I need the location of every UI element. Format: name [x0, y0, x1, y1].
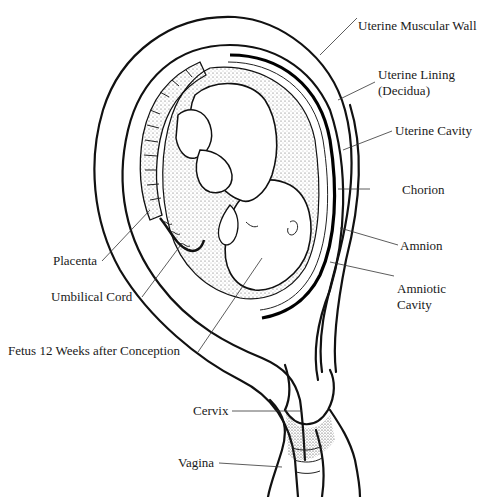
label-amniotic-cavity: Cavity — [397, 297, 432, 312]
label-placenta: Placenta — [53, 253, 97, 268]
label-uterine-muscular-wall: Uterine Muscular Wall — [358, 18, 477, 33]
label-umbilical-cord: Umbilical Cord — [51, 289, 132, 304]
label-fetus: Fetus 12 Weeks after Conception — [8, 343, 180, 358]
label-decidua: (Decidua) — [378, 83, 430, 98]
label-vagina: Vagina — [178, 455, 214, 470]
label-amnion: Amnion — [400, 238, 443, 253]
cervix-vagina — [268, 365, 360, 497]
label-amniotic: Amniotic — [397, 281, 446, 296]
label-uterine-cavity: Uterine Cavity — [395, 123, 472, 138]
label-chorion: Chorion — [402, 182, 445, 197]
label-cervix: Cervix — [193, 403, 228, 418]
label-uterine-lining: Uterine Lining — [378, 67, 455, 82]
